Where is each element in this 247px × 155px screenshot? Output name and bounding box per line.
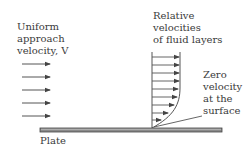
approach-velocity-label: Uniform approach velocity, V	[17, 21, 69, 57]
approach-label-line: velocity, V	[17, 45, 69, 57]
relative-label-line: velocities	[153, 22, 222, 34]
relative-velocities-label: Relative velocities of fluid layers	[153, 10, 222, 46]
plate-label: Plate	[40, 135, 66, 147]
approach-label-line: approach	[17, 33, 69, 45]
zero-velocity-leader-line	[154, 116, 202, 127]
zero-label-line: Zero	[203, 69, 242, 81]
relative-label-line: Relative	[153, 10, 222, 22]
approach-label-line: Uniform	[17, 21, 69, 33]
plate	[40, 128, 222, 132]
approach-velocity-arrows	[22, 64, 50, 116]
zero-label-line: velocity	[203, 81, 242, 93]
velocity-profile	[152, 52, 180, 128]
relative-label-line: of fluid layers	[153, 34, 222, 46]
zero-label-line: at the	[203, 93, 242, 105]
zero-label-line: surface	[203, 105, 242, 117]
profile-curve	[152, 52, 180, 128]
zero-velocity-label: Zero velocity at the surface	[203, 69, 242, 117]
